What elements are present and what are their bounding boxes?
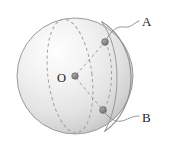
point-marker-a bbox=[102, 39, 109, 46]
point-marker-b bbox=[100, 107, 107, 114]
point-label-b: B bbox=[142, 111, 151, 124]
sphere-diagram: A B O bbox=[0, 0, 170, 148]
point-marker-o bbox=[72, 73, 79, 80]
point-label-a: A bbox=[142, 15, 151, 28]
center-label-o: O bbox=[57, 72, 66, 85]
